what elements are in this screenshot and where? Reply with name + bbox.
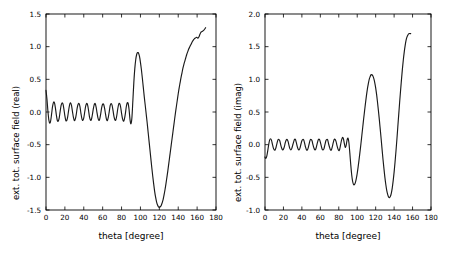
y-tick-label: 0.5 [30, 75, 41, 84]
x-tick-label: 100 [350, 213, 364, 222]
y-tick-label: -0.5 [246, 173, 260, 182]
x-tick-label: 40 [79, 213, 89, 222]
y-tick-label: 0.0 [30, 108, 42, 117]
chart-panel-real: 020406080100120140160180-1.5-1.0-0.50.00… [0, 0, 226, 257]
x-tick-label: 60 [316, 213, 326, 222]
y-tick-label: 0.5 [249, 108, 260, 117]
data-curve [265, 34, 411, 198]
y-tick-label: -1.0 [27, 173, 41, 182]
chart-panel-imag: 020406080100120140160180-1.0-0.50.00.51.… [225, 0, 451, 257]
y-tick-label: 1.0 [249, 75, 261, 84]
y-tick-label: -1.0 [246, 206, 260, 215]
x-tick-label: 180 [209, 213, 223, 222]
x-tick-label: 0 [44, 213, 49, 222]
y-tick-label: 1.5 [249, 42, 260, 51]
x-tick-label: 40 [297, 213, 307, 222]
y-tick-label: 1.5 [30, 10, 41, 19]
y-axis-label-real: ext. tot. surface field (real) [11, 86, 21, 200]
axes-real: 020406080100120140160180-1.5-1.0-0.50.00… [0, 0, 226, 257]
x-tick-label: 160 [190, 213, 204, 222]
x-tick-label: 140 [387, 213, 401, 222]
x-tick-label: 160 [406, 213, 420, 222]
x-tick-label: 20 [60, 213, 70, 222]
y-tick-label: 2.0 [249, 10, 261, 19]
y-tick-label: 0.0 [249, 140, 261, 149]
axes-imag: 020406080100120140160180-1.0-0.50.00.51.… [225, 0, 451, 257]
x-axis-label-imag: theta [degree] [265, 231, 431, 241]
y-tick-label: 1.0 [30, 42, 42, 51]
y-axis-label-imag: ext. tot. surface field (imag) [233, 83, 243, 202]
data-curve [46, 28, 206, 208]
y-tick-label: -0.5 [27, 140, 41, 149]
x-tick-label: 120 [369, 213, 383, 222]
x-tick-label: 80 [117, 213, 127, 222]
figure-canvas: 020406080100120140160180-1.5-1.0-0.50.00… [0, 0, 451, 257]
x-tick-label: 0 [263, 213, 268, 222]
x-tick-label: 80 [334, 213, 344, 222]
x-tick-label: 140 [171, 213, 185, 222]
plot-frame [46, 14, 216, 210]
x-axis-label-real: theta [degree] [46, 231, 216, 241]
x-tick-label: 180 [424, 213, 438, 222]
plot-frame [265, 14, 431, 210]
x-tick-label: 120 [152, 213, 166, 222]
x-tick-label: 60 [98, 213, 108, 222]
y-tick-label: -1.5 [27, 206, 41, 215]
x-tick-label: 20 [279, 213, 289, 222]
x-tick-label: 100 [134, 213, 148, 222]
